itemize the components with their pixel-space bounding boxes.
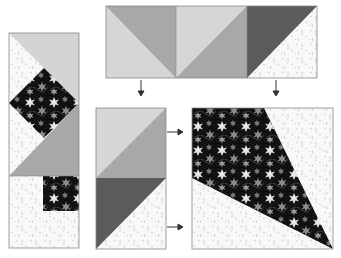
arrow-right-top — [167, 129, 183, 135]
arrow-down-left — [138, 80, 144, 96]
arrow-down-right — [273, 80, 279, 96]
floral-kite-block-panel — [192, 108, 333, 249]
arrow-right-bottom — [167, 224, 183, 230]
assembled-strip-panel — [9, 33, 79, 248]
half-square-triangles-row-panel — [106, 6, 317, 78]
hst-stack-panel — [96, 108, 166, 249]
quilt-diagram — [0, 0, 341, 258]
floral-square — [43, 176, 79, 211]
